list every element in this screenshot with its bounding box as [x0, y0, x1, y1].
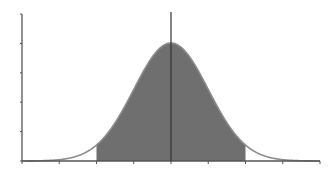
- normal-distribution-chart: [0, 0, 336, 175]
